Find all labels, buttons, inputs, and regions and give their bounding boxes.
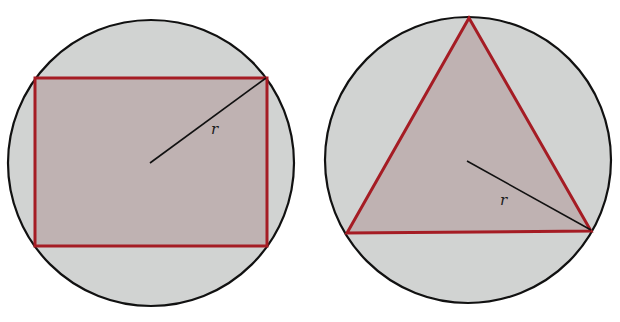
radius-label: r xyxy=(211,120,219,138)
radius-label: r xyxy=(500,191,508,209)
diagram-canvas: r r xyxy=(0,0,620,322)
figure-left-rectangle: r xyxy=(8,20,294,306)
figure-right-triangle: r xyxy=(325,17,611,303)
